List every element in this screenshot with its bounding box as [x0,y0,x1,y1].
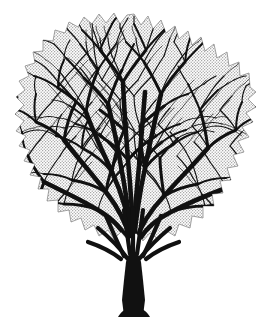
tree-drawing [0,0,268,322]
tree-illustration-figure: Deciduous tree silhouette illustration [0,0,268,322]
